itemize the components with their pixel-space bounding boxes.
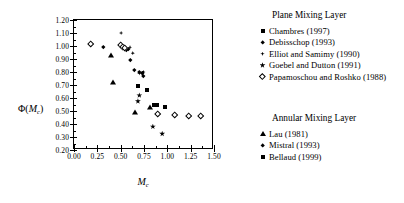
x-tick-inner [144, 145, 145, 148]
legend-annular-mixing-layer: Annular Mixing Layer Lau (1981)Mistral (… [256, 113, 356, 163]
marker-diamond-filled [128, 58, 133, 63]
x-tick-inner [191, 145, 192, 148]
legend-label: Lau (1981) [269, 129, 308, 139]
marker-triangle-filled [132, 109, 138, 114]
marker-square-filled [136, 84, 140, 88]
data-point [119, 31, 123, 35]
marker-square-filled [261, 155, 265, 159]
data-point [201, 116, 206, 121]
x-tick-minor [156, 146, 157, 148]
data-point [103, 48, 106, 51]
y-tick-minor [74, 118, 76, 119]
y-tick-minor [74, 79, 76, 80]
legend-plane-mixing-layer: Plane Mixing Layer Chambres (1997)Debiss… [256, 10, 386, 83]
data-point [111, 56, 117, 61]
x-tick-inner [97, 145, 98, 148]
legend-item-annular-0[interactable]: Lau (1981) [256, 128, 356, 140]
x-tick-minor [86, 146, 87, 148]
marker-triangle-filled [108, 53, 114, 58]
marker-square-filled [261, 29, 265, 33]
marker-star [159, 131, 165, 137]
y-tick-minor [74, 40, 76, 41]
data-point [174, 115, 179, 120]
data-point [113, 83, 119, 88]
legend-item-plane-0[interactable]: Chambres (1997) [256, 25, 386, 37]
x-tick-minor [202, 146, 203, 148]
marker-square-filled [163, 105, 167, 109]
legend-label: Chambres (1997) [269, 26, 330, 36]
data-point [90, 44, 95, 49]
y-tick-inner [74, 124, 77, 125]
data-point [131, 51, 135, 55]
marker-square-filled [152, 103, 156, 107]
legend-item-annular-1[interactable]: Mistral (1993) [256, 140, 356, 152]
x-tick-inner [74, 145, 75, 148]
legend-marker-square-filled-icon [256, 25, 269, 37]
data-point [135, 98, 141, 104]
x-tick-label: 1.50 [207, 152, 221, 161]
y-tick-label: 0.80 [55, 68, 69, 77]
x-tick-inner [214, 145, 215, 148]
marker-star [135, 98, 141, 104]
legend-marker-plus-diamond-icon [256, 48, 269, 60]
marker-star [260, 62, 266, 68]
y-tick-inner [74, 46, 77, 47]
y-tick-minor [74, 53, 76, 54]
y-tick-inner [74, 59, 77, 60]
x-tick-label: 1.25 [184, 152, 198, 161]
legend-item-plane-2[interactable]: Elliot and Samimy (1990) [256, 48, 386, 60]
legend-plane-rows: Chambres (1997)Debisschop (1993)Elliot a… [256, 25, 386, 83]
legend-marker-triangle-filled-icon [256, 128, 269, 140]
y-tick-inner [74, 98, 77, 99]
x-tick-minor [179, 146, 180, 148]
marker-diamond-filled [101, 45, 106, 50]
y-tick-label: 0.40 [55, 120, 69, 129]
marker-plus-diamond [119, 31, 123, 35]
legend-item-plane-1[interactable]: Debisschop (1993) [256, 37, 386, 49]
y-tick-label: 1.20 [55, 16, 69, 25]
marker-plus-diamond [131, 51, 135, 55]
data-point [135, 112, 141, 117]
legend-marker-diamond-filled-icon [256, 37, 269, 49]
data-point [150, 108, 156, 113]
y-tick-minor [74, 66, 76, 67]
plot-area: 0.200.300.400.500.600.700.800.901.001.10… [73, 19, 213, 149]
y-tick-label: 0.70 [55, 81, 69, 90]
y-tick-label: 0.50 [55, 107, 69, 116]
y-tick-inner [74, 20, 77, 21]
marker-diamond-filled [260, 40, 265, 45]
legend-label: Elliot and Samimy (1990) [269, 49, 360, 59]
y-axis-title-suffix: ) [40, 103, 43, 114]
x-tick-label: 0.00 [67, 152, 81, 161]
marker-diamond-filled [260, 143, 265, 148]
y-tick-label: 0.30 [55, 133, 69, 142]
legend-item-plane-3[interactable]: Goebel and Dutton (1991) [256, 60, 386, 72]
data-point [150, 124, 156, 130]
legend-annular-title: Annular Mixing Layer [272, 113, 356, 123]
legend-label: Mistral (1993) [269, 140, 320, 150]
marker-plus-diamond [260, 52, 264, 56]
data-point [152, 103, 156, 107]
legend-label: Debisschop (1993) [269, 37, 335, 47]
marker-diamond-open [197, 113, 203, 119]
x-tick-label: 0.50 [114, 152, 128, 161]
marker-triangle-filled [260, 131, 266, 136]
marker-diamond-filled [132, 68, 137, 73]
data-point [130, 60, 133, 63]
marker-triangle-filled [110, 80, 116, 85]
legend-marker-diamond-filled-icon [256, 140, 269, 152]
data-point [188, 116, 193, 121]
data-point [143, 74, 146, 77]
legend-item-plane-4[interactable]: Papamoschou and Roshko (1988) [256, 71, 386, 83]
x-axis-title-sub: c [146, 181, 149, 188]
data-point [159, 131, 165, 137]
legend-plane-title: Plane Mixing Layer [272, 10, 386, 20]
data-point [136, 84, 140, 88]
marker-diamond-open [185, 113, 191, 119]
y-axis-title-prefix: Φ( [18, 103, 29, 114]
figure-root: 0.200.300.400.500.600.700.800.901.001.10… [0, 0, 404, 203]
legend-marker-star-icon [256, 60, 269, 72]
legend-label: Bellaud (1999) [269, 152, 322, 162]
y-axis-title: Φ(Mc) [18, 103, 43, 115]
legend-item-annular-2[interactable]: Bellaud (1999) [256, 151, 356, 163]
